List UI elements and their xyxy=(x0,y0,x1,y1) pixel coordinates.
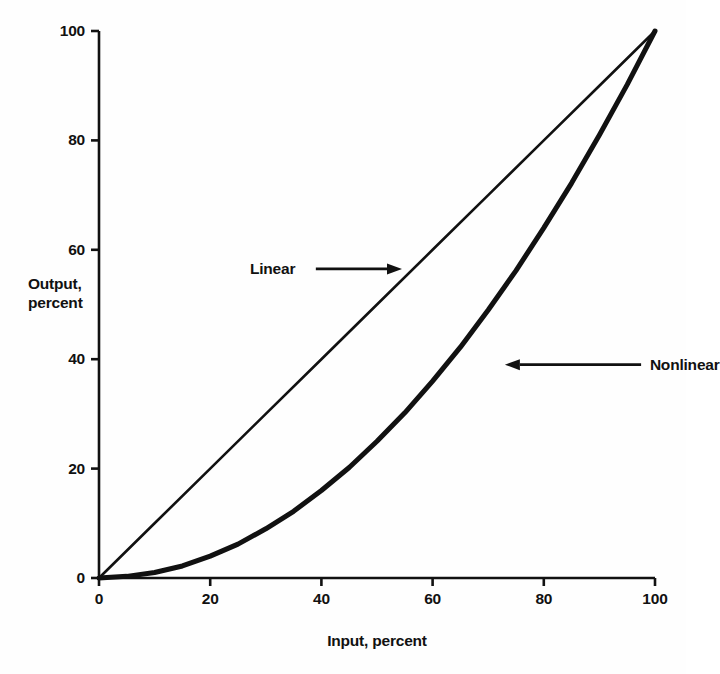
x-tick-label-2: 40 xyxy=(313,590,330,608)
y-tick-label-2: 40 xyxy=(68,350,85,368)
y-axis-title-line-1: Output, xyxy=(28,274,83,294)
annotation-label-nonlinear: Nonlinear xyxy=(650,356,720,374)
y-axis-title-line-2: percent xyxy=(28,293,83,313)
y-tick-label-3: 60 xyxy=(68,241,85,259)
y-axis-title: Output, percent xyxy=(28,274,83,314)
y-tick-label-0: 0 xyxy=(77,569,85,587)
x-tick-label-4: 80 xyxy=(535,590,552,608)
y-tick-label-5: 100 xyxy=(60,22,85,40)
series-line-linear xyxy=(99,31,655,578)
y-tick-label-1: 20 xyxy=(68,460,85,478)
annotation-arrow-head-1 xyxy=(505,359,520,370)
y-tick-label-4: 80 xyxy=(68,131,85,149)
data-series xyxy=(99,31,655,578)
annotation-label-linear: Linear xyxy=(250,260,295,278)
x-axis-title: Input, percent xyxy=(327,631,427,651)
annotation-arrow-head-0 xyxy=(387,263,402,274)
x-tick-label-3: 60 xyxy=(424,590,441,608)
x-tick-label-1: 20 xyxy=(202,590,219,608)
x-tick-label-0: 0 xyxy=(95,590,103,608)
x-tick-label-5: 100 xyxy=(642,590,667,608)
